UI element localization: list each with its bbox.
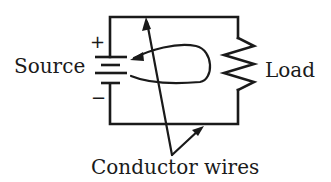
battery-source-icon [95,57,127,83]
source-label: Source [14,54,85,78]
negative-terminal-label: − [91,89,106,107]
circuit-diagram: + − Source Load Conductor wires [0,0,331,182]
pointer-arrow-loop [131,45,210,83]
conductor-wires-label: Conductor wires [91,155,259,179]
resistor-load-icon [224,38,254,90]
top-wire [110,17,238,57]
load-label: Load [265,58,315,82]
pointer-arrow-top-wire [147,22,172,155]
positive-terminal-label: + [90,33,105,51]
bottom-wire [110,84,238,124]
arrowhead-up-icon [142,17,151,31]
arrowhead-left-icon [130,52,144,61]
